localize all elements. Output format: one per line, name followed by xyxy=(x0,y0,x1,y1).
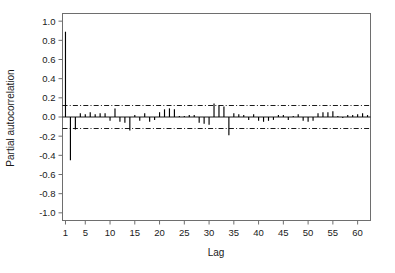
x-tick-label: 60 xyxy=(352,227,363,238)
y-tick-label: -1.0 xyxy=(39,207,55,218)
y-tick-label: 0.8 xyxy=(42,35,55,46)
x-axis-title: Lag xyxy=(208,247,225,258)
y-tick-labels: 1.00.80.60.40.20.0-0.2-0.4-0.6-0.8-1.0 xyxy=(39,16,55,219)
y-tick-label: 0.6 xyxy=(42,54,55,65)
x-tick-label: 50 xyxy=(303,227,314,238)
y-tick-label: 1.0 xyxy=(42,16,55,27)
x-tick-label: 20 xyxy=(154,227,165,238)
y-tick-label: -0.8 xyxy=(39,188,55,199)
y-tick-label: -0.4 xyxy=(39,150,55,161)
x-tick-label: 30 xyxy=(204,227,215,238)
x-tick-label: 40 xyxy=(253,227,264,238)
x-tick-label: 45 xyxy=(278,227,289,238)
x-tick-label: 35 xyxy=(229,227,240,238)
y-tick-label: -0.6 xyxy=(39,169,55,180)
x-tick-marks xyxy=(65,221,357,225)
pacf-plot-svg: Partial autocorrelation 1.00.80.60.40.20… xyxy=(0,0,395,273)
pacf-bars xyxy=(65,32,367,160)
x-tick-label: 55 xyxy=(328,227,339,238)
x-tick-label: 10 xyxy=(105,227,116,238)
x-tick-label: 5 xyxy=(83,227,88,238)
y-tick-label: 0.2 xyxy=(42,92,55,103)
pacf-chart: Partial autocorrelation 1.00.80.60.40.20… xyxy=(0,0,395,273)
x-tick-labels: 151015202530354045505560 xyxy=(63,227,363,238)
y-axis-title-text: Partial autocorrelation xyxy=(5,69,16,166)
y-axis-title: Partial autocorrelation xyxy=(5,69,16,166)
y-tick-label: 0.4 xyxy=(42,73,55,84)
x-axis-title-text: Lag xyxy=(208,247,225,258)
x-tick-label: 1 xyxy=(63,227,68,238)
y-tick-marks xyxy=(59,21,63,213)
y-tick-label: -0.2 xyxy=(39,131,55,142)
x-tick-label: 15 xyxy=(130,227,141,238)
x-tick-label: 25 xyxy=(179,227,190,238)
y-tick-label: 0.0 xyxy=(42,111,55,122)
